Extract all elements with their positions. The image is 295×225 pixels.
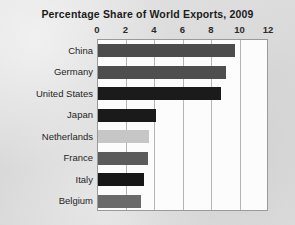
bar [98, 66, 226, 79]
category-label: Japan [67, 109, 93, 120]
category-label: Belgium [59, 195, 93, 206]
bar [98, 44, 235, 57]
category-label: France [63, 152, 93, 163]
x-tick-label: 12 [263, 24, 274, 35]
plot-area [97, 39, 268, 211]
x-tick-label: 4 [151, 24, 156, 35]
bar [98, 173, 144, 186]
bar [98, 109, 156, 122]
category-label: China [68, 44, 93, 55]
category-label: United States [36, 87, 93, 98]
bar [98, 130, 149, 143]
bar [98, 87, 221, 100]
x-tick-label: 8 [208, 24, 213, 35]
x-axis-tick-labels: 024681012 [97, 24, 268, 38]
category-label: Germany [54, 66, 93, 77]
chart-title: Percentage Share of World Exports, 2009 [0, 8, 295, 20]
bar [98, 152, 148, 165]
chart-figure: Percentage Share of World Exports, 2009 … [0, 0, 295, 225]
category-label: Netherlands [42, 130, 93, 141]
x-tick-label: 6 [180, 24, 185, 35]
bar [98, 195, 141, 208]
x-tick-label: 2 [123, 24, 128, 35]
bars-layer [98, 40, 267, 210]
y-axis-category-labels: ChinaGermanyUnited StatesJapanNetherland… [0, 39, 93, 211]
x-tick-label: 10 [234, 24, 245, 35]
x-tick-label: 0 [94, 24, 99, 35]
category-label: Italy [76, 173, 93, 184]
